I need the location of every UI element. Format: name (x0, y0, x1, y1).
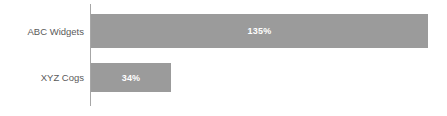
category-label-xyz-cogs: XYZ Cogs (41, 63, 90, 92)
bar-chart: ABC Widgets XYZ Cogs 135% 34% (0, 0, 447, 116)
bar-row: 34% (91, 63, 171, 92)
plot-area: 135% 34% (91, 0, 447, 116)
category-label-abc-widgets: ABC Widgets (28, 14, 91, 48)
bar-data-label: 34% (91, 63, 171, 92)
bar-row: 135% (91, 14, 428, 48)
bar-data-label: 135% (91, 14, 428, 48)
